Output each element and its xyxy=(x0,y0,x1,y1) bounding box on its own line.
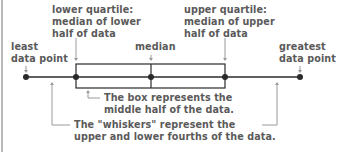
least-point xyxy=(23,74,29,80)
arrow-icon xyxy=(50,82,54,85)
arrow-icon xyxy=(74,58,78,61)
lower-quartile-point xyxy=(73,74,79,80)
arrow-icon xyxy=(298,70,302,73)
whisker-right-pointer xyxy=(262,83,277,125)
whisker-left-pointer xyxy=(52,83,70,125)
arrow-icon xyxy=(275,82,279,85)
arrow-icon xyxy=(24,70,28,73)
median-point xyxy=(148,74,154,80)
greatest-point xyxy=(297,74,303,80)
upper-quartile-point xyxy=(222,74,228,80)
box-plot-graphic xyxy=(0,0,340,152)
arrow-icon xyxy=(149,58,153,61)
arrow-icon xyxy=(223,58,227,61)
arrow-icon xyxy=(86,90,90,93)
